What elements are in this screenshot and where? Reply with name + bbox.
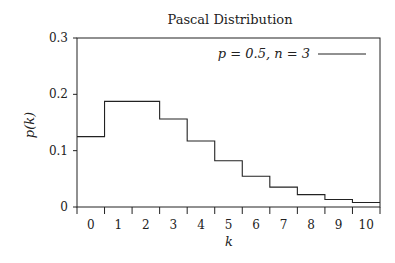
legend: p = 0.5, n = 3 [218, 46, 366, 61]
legend-label: p = 0.5, n = 3 [218, 46, 310, 61]
x-tick-label: 9 [335, 218, 343, 232]
x-tick-label: 5 [225, 218, 233, 232]
y-tick-label: 0.2 [49, 87, 68, 101]
y-axis: 00.10.20.3 [49, 31, 77, 214]
x-tick-label: 6 [252, 218, 260, 232]
series-line [77, 101, 380, 202]
x-tick-label: 8 [307, 218, 315, 232]
chart: Pascal Distribution 00.10.20.3 012345678… [0, 0, 395, 263]
x-tick-label: 4 [197, 218, 205, 232]
x-tick-label: 3 [170, 218, 178, 232]
y-tick-label: 0 [60, 200, 68, 214]
y-tick-label: 0.1 [49, 144, 68, 158]
y-axis-label: p(k) [22, 112, 37, 138]
x-tick-label: 7 [280, 218, 288, 232]
y-tick-label: 0.3 [49, 31, 68, 45]
x-tick-label: 1 [114, 218, 122, 232]
x-tick-label: 0 [87, 218, 95, 232]
plot-frame [77, 38, 380, 207]
x-tick-label: 10 [359, 218, 374, 232]
x-axis: 012345678910 [77, 207, 380, 232]
x-tick-label: 2 [142, 218, 150, 232]
x-axis-label: k [225, 234, 233, 249]
chart-title: Pascal Distribution [167, 12, 293, 27]
